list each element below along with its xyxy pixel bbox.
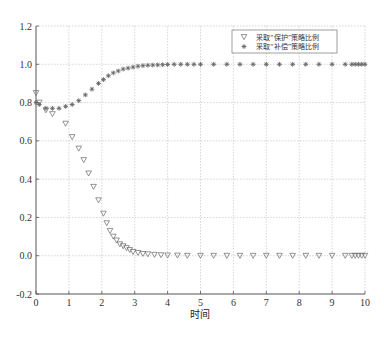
asterisk-marker xyxy=(57,106,62,111)
y-tick-label: 0.2 xyxy=(20,212,33,223)
y-tick-label: -0.2 xyxy=(16,289,32,300)
asterisk-icon xyxy=(242,44,247,49)
x-axis-title: 时间 xyxy=(190,308,210,320)
asterisk-marker xyxy=(83,93,88,98)
x-tick-label: 6 xyxy=(231,297,236,308)
triangle-down-marker xyxy=(107,228,113,233)
asterisk-marker xyxy=(145,63,150,68)
asterisk-marker xyxy=(165,62,170,67)
x-tick-label: 0 xyxy=(34,297,39,308)
asterisk-marker xyxy=(70,102,75,107)
asterisk-marker xyxy=(116,69,121,74)
asterisk-marker xyxy=(172,62,177,67)
y-tick-label: 1.0 xyxy=(20,59,33,70)
asterisk-marker xyxy=(76,98,81,103)
triangle-down-marker xyxy=(50,112,56,117)
asterisk-marker xyxy=(50,106,55,111)
asterisk-marker xyxy=(136,64,141,69)
triangle-down-marker xyxy=(152,252,158,257)
x-tick-label: 2 xyxy=(99,297,104,308)
asterisk-marker xyxy=(224,62,229,67)
y-tick-label: 0.8 xyxy=(20,97,33,108)
triangle-down-marker xyxy=(63,121,69,126)
asterisk-marker xyxy=(185,62,190,67)
x-tick-label: 4 xyxy=(165,297,170,308)
asterisk-marker xyxy=(238,62,243,67)
asterisk-marker xyxy=(106,73,111,78)
asterisk-marker xyxy=(198,62,203,67)
x-tick-label: 3 xyxy=(132,297,137,308)
asterisk-marker xyxy=(211,62,216,67)
triangle-down-marker xyxy=(86,171,92,176)
asterisk-marker xyxy=(121,67,126,72)
x-tick-label: 8 xyxy=(297,297,302,308)
x-tick-label: 7 xyxy=(264,297,269,308)
triangle-down-marker xyxy=(81,158,87,163)
triangle-down-marker xyxy=(111,234,117,239)
asterisk-marker xyxy=(363,62,368,67)
legend-label: 采取“保护”策略比例 xyxy=(256,33,319,42)
triangle-down-marker xyxy=(114,238,120,243)
y-tick-label: 0.4 xyxy=(20,174,33,185)
y-tick-label: 1.2 xyxy=(20,21,33,32)
legend: 采取“保护”策略比例采取“补偿”策略比例 xyxy=(232,30,337,53)
triangle-down-marker xyxy=(76,146,82,151)
asterisk-marker xyxy=(290,62,295,67)
data-series xyxy=(33,62,368,258)
asterisk-marker xyxy=(126,66,131,71)
triangle-down-marker xyxy=(145,252,151,257)
asterisk-marker xyxy=(43,106,48,111)
x-tick-label: 5 xyxy=(198,297,203,308)
asterisk-marker xyxy=(303,62,308,67)
x-tick-label: 1 xyxy=(66,297,71,308)
asterisk-marker xyxy=(343,62,348,67)
asterisk-marker xyxy=(330,62,335,67)
triangle-down-marker xyxy=(104,221,110,226)
asterisk-marker xyxy=(160,62,165,67)
asterisk-marker xyxy=(155,62,160,67)
asterisk-marker xyxy=(63,104,68,109)
asterisk-marker xyxy=(101,77,106,82)
triangle-down-marker xyxy=(101,211,107,216)
triangle-down-marker xyxy=(158,253,164,258)
asterisk-marker xyxy=(178,62,183,67)
asterisk-marker xyxy=(37,102,42,107)
asterisk-marker xyxy=(150,63,155,68)
asterisk-marker xyxy=(96,81,101,86)
asterisk-marker xyxy=(192,62,197,67)
asterisk-marker xyxy=(251,62,256,67)
asterisk-marker xyxy=(317,62,322,67)
asterisk-marker xyxy=(131,65,136,70)
y-tick-label: 0.6 xyxy=(20,135,33,146)
legend-label: 采取“补偿”策略比例 xyxy=(256,42,319,51)
triangle-down-marker xyxy=(69,135,75,140)
chart: 012345678910-0.20.00.20.40.60.81.01.2 采取… xyxy=(0,0,384,337)
triangle-down-marker xyxy=(91,184,97,189)
y-tick-label: 0.0 xyxy=(20,250,33,261)
x-tick-label: 10 xyxy=(360,297,370,308)
asterisk-marker xyxy=(277,62,282,67)
x-tick-label: 9 xyxy=(330,297,335,308)
asterisk-marker xyxy=(90,87,95,92)
asterisk-marker xyxy=(141,63,146,68)
asterisk-marker xyxy=(111,71,116,76)
asterisk-marker xyxy=(264,62,269,67)
triangle-down-marker xyxy=(96,198,102,203)
